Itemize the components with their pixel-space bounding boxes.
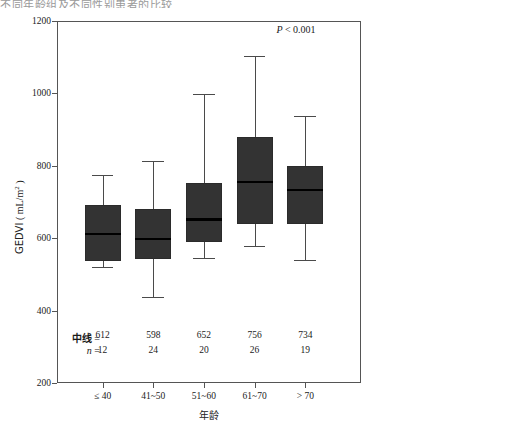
age-panel-p-value: P < 0.001 — [276, 24, 315, 35]
stat-value-0-1: 598 — [146, 330, 160, 340]
x-tick-4 — [305, 383, 306, 388]
median-line-3 — [237, 181, 273, 184]
stat-value-0-2: 652 — [197, 330, 211, 340]
median-line-4 — [287, 189, 323, 192]
whisker-lower-2 — [204, 242, 205, 258]
box-age-panel-1 — [135, 209, 171, 260]
x-tick-2 — [204, 383, 205, 388]
whisker-cap-lower-4 — [294, 260, 316, 261]
x-tick-label-1: 41~50 — [141, 391, 165, 401]
stat-value-1-4: 19 — [301, 345, 311, 355]
x-tick-label-2: 51~60 — [192, 391, 216, 401]
stat-value-0-0: 612 — [95, 330, 109, 340]
age-panel-x-axis-title: 年龄 — [199, 407, 219, 422]
whisker-cap-upper-0 — [92, 175, 114, 176]
y-tick-label-800: 800 — [25, 161, 51, 171]
stat-value-1-0: 12 — [98, 345, 108, 355]
x-tick-label-3: 61~70 — [243, 391, 267, 401]
x-tick-0 — [103, 383, 104, 388]
y-tick-1200 — [52, 21, 57, 22]
whisker-upper-1 — [153, 161, 154, 208]
stat-value-0-3: 756 — [247, 330, 261, 340]
box-age-panel-4 — [287, 166, 323, 224]
whisker-upper-3 — [255, 56, 256, 137]
x-tick-label-4: > 70 — [297, 391, 314, 401]
whisker-cap-upper-3 — [244, 56, 266, 57]
whisker-cap-lower-1 — [142, 297, 164, 298]
whisker-lower-4 — [305, 224, 306, 260]
median-line-0 — [85, 233, 121, 236]
whisker-cap-upper-2 — [193, 94, 215, 95]
median-line-1 — [135, 238, 171, 241]
whisker-upper-4 — [305, 116, 306, 166]
y-tick-200 — [52, 383, 57, 384]
figure-root: 不同年龄组及不同性别患者的比较 20040060080010001200GEDV… — [0, 0, 530, 429]
y-tick-label-400: 400 — [25, 306, 51, 316]
whisker-lower-3 — [255, 224, 256, 246]
whisker-cap-lower-2 — [193, 258, 215, 259]
stat-value-0-4: 734 — [298, 330, 312, 340]
whisker-lower-1 — [153, 259, 154, 297]
x-tick-1 — [153, 383, 154, 388]
whisker-cap-upper-1 — [142, 161, 164, 162]
y-tick-label-200: 200 — [25, 378, 51, 388]
sex-panel: 20040060080010001200GEDVI ( mL/m2 )男女P <… — [370, 0, 530, 429]
whisker-cap-lower-3 — [244, 246, 266, 247]
y-tick-label-1200: 1200 — [25, 16, 51, 26]
x-tick-label-0: ≤ 40 — [94, 391, 111, 401]
stat-value-1-2: 20 — [199, 345, 209, 355]
y-tick-800 — [52, 166, 57, 167]
whisker-upper-0 — [103, 175, 104, 205]
y-tick-600 — [52, 238, 57, 239]
y-tick-1000 — [52, 93, 57, 94]
whisker-upper-2 — [204, 94, 205, 183]
y-tick-400 — [52, 311, 57, 312]
median-line-2 — [186, 218, 222, 221]
age-panel: 20040060080010001200GEDVI ( mL/m2 )≤ 404… — [0, 0, 368, 429]
y-tick-label-1000: 1000 — [25, 88, 51, 98]
stat-value-1-1: 24 — [149, 345, 159, 355]
age-panel-y-axis-title: GEDVI ( mL/m2 ) — [13, 180, 25, 254]
stat-value-1-3: 26 — [250, 345, 260, 355]
whisker-cap-upper-4 — [294, 116, 316, 117]
whisker-cap-lower-0 — [92, 267, 114, 268]
box-age-panel-2 — [186, 183, 222, 242]
y-tick-label-600: 600 — [25, 233, 51, 243]
x-tick-3 — [255, 383, 256, 388]
